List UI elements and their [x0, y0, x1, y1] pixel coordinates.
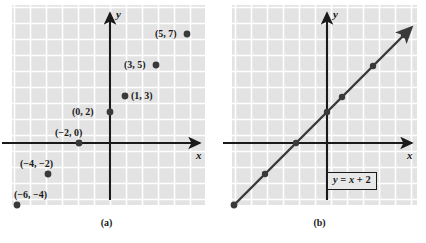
point-label-5-7: (5, 7)	[155, 29, 177, 39]
axis-label-y-a: y	[116, 9, 121, 20]
panel-b: x y y = x + 2 (b)	[213, 0, 426, 243]
data-point	[76, 140, 83, 147]
data-point	[107, 109, 114, 116]
equation-rest: + 2	[354, 174, 370, 185]
point-label-neg4-neg2: (−4, −2)	[20, 159, 53, 169]
data-point	[324, 109, 330, 115]
axes-b	[213, 0, 426, 243]
axis-label-x-b: x	[407, 150, 413, 161]
point-label-3-5: (3, 5)	[124, 60, 146, 70]
panel-a: x y (−6, −4) (−4, −2) (−2, 0) (0, 2) (1,…	[0, 0, 213, 243]
data-point	[262, 171, 268, 177]
axis-label-y-b: y	[333, 9, 338, 20]
data-point	[401, 32, 407, 38]
point-label-neg6-neg4: (−6, −4)	[14, 190, 47, 200]
data-point	[370, 63, 376, 69]
data-point	[122, 93, 129, 100]
data-point	[153, 62, 160, 69]
equation-relation: =	[338, 174, 349, 185]
data-points-a	[14, 31, 191, 209]
axes-a	[0, 0, 213, 243]
point-label-1-3: (1, 3)	[131, 91, 153, 101]
data-point	[184, 31, 191, 38]
point-label-neg2-0: (−2, 0)	[55, 128, 82, 138]
equation-label-box: y = x + 2	[327, 172, 377, 190]
caption-b: (b)	[213, 218, 426, 228]
figure-graph-pair: x y (−6, −4) (−4, −2) (−2, 0) (0, 2) (1,…	[0, 0, 426, 243]
caption-a: (a)	[0, 218, 213, 228]
data-point	[45, 171, 52, 178]
data-point	[231, 202, 238, 209]
axis-label-x-a: x	[196, 150, 202, 161]
data-point	[339, 94, 345, 100]
line-y-equals-x-plus-2	[234, 28, 411, 205]
point-label-0-2: (0, 2)	[72, 107, 94, 117]
data-point	[14, 202, 21, 209]
data-point	[293, 140, 299, 146]
